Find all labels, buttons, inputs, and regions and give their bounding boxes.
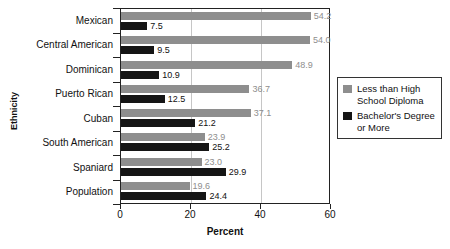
bar-group: 37.121.2 [121, 106, 329, 130]
x-axis-tick-label: 20 [184, 209, 195, 220]
bar-rows: 54.27.554.09.548.910.936.712.537.121.223… [121, 9, 329, 203]
bar [121, 109, 251, 117]
legend-swatch [343, 112, 352, 120]
category-label: Puerto Rican [6, 82, 118, 107]
y-axis-tick [113, 204, 120, 205]
bar [121, 22, 147, 30]
bar-group: 23.925.2 [121, 130, 329, 154]
bar-value-label: 29.9 [226, 167, 247, 177]
bar [121, 119, 195, 127]
bar [121, 182, 190, 190]
bar-value-label: 21.2 [195, 118, 216, 128]
bar [121, 192, 206, 200]
y-axis-tick [113, 82, 120, 83]
legend-swatch [343, 85, 352, 93]
x-axis-tick-label: 60 [324, 209, 335, 220]
bar-value-label: 24.4 [206, 191, 227, 201]
bar-value-label: 7.5 [147, 21, 163, 31]
x-axis-title: Percent [120, 226, 330, 237]
bar-value-label: 37.1 [251, 108, 272, 118]
bar-value-label: 54.2 [311, 11, 332, 21]
bar-value-label: 36.7 [249, 84, 270, 94]
bar [121, 46, 154, 54]
bar [121, 158, 202, 166]
legend-label: Less than High School Diploma [357, 83, 424, 106]
x-axis-tick-labels: 0204060 [120, 209, 330, 223]
y-axis-tick [113, 33, 120, 34]
plot-area: 54.27.554.09.548.910.936.712.537.121.223… [120, 8, 330, 204]
bar [121, 71, 159, 79]
bar-value-label: 48.9 [292, 60, 313, 70]
y-axis-ticks [113, 8, 120, 204]
legend-label: Bachelor's Degree or More [357, 110, 435, 133]
bar [121, 85, 249, 93]
category-label: Population [6, 180, 118, 205]
bar-group: 54.27.5 [121, 9, 329, 33]
bar-value-label: 10.9 [159, 70, 180, 80]
bar [121, 61, 292, 69]
chart-legend: Less than High School DiplomaBachelor's … [337, 77, 442, 139]
y-axis-tick [113, 8, 120, 9]
category-label: Dominican [6, 57, 118, 82]
horizontal-bar-chart: Ethnicity MexicanCentral AmericanDominic… [0, 0, 450, 249]
bar [121, 168, 226, 176]
bar-group: 48.910.9 [121, 58, 329, 82]
bar-group: 36.712.5 [121, 82, 329, 106]
x-axis-tick-label: 0 [117, 209, 123, 220]
category-label: Cuban [6, 106, 118, 131]
category-label: Spaniard [6, 155, 118, 180]
bar-value-label: 54.0 [310, 35, 331, 45]
y-axis-tick [113, 131, 120, 132]
y-axis-tick [113, 57, 120, 58]
bar-group: 54.09.5 [121, 33, 329, 57]
bar-value-label: 25.2 [209, 142, 230, 152]
bar-value-label: 23.9 [205, 132, 226, 142]
bar [121, 36, 310, 44]
bar [121, 12, 311, 20]
bar-group: 19.624.4 [121, 179, 329, 203]
bar-value-label: 12.5 [165, 94, 186, 104]
y-axis-tick [113, 180, 120, 181]
bar [121, 95, 165, 103]
category-labels: MexicanCentral AmericanDominicanPuerto R… [6, 8, 118, 204]
y-axis-tick [113, 155, 120, 156]
legend-item: Bachelor's Degree or More [343, 110, 435, 133]
category-label: Central American [6, 33, 118, 58]
bar-value-label: 19.6 [190, 181, 211, 191]
category-label: Mexican [6, 8, 118, 33]
x-axis-tick-label: 40 [254, 209, 265, 220]
legend-item: Less than High School Diploma [343, 83, 435, 106]
y-axis-tick [113, 106, 120, 107]
bar-value-label: 23.0 [202, 157, 223, 167]
bar [121, 143, 209, 151]
bar-group: 23.029.9 [121, 155, 329, 179]
bar [121, 133, 205, 141]
category-label: South American [6, 131, 118, 156]
bar-value-label: 9.5 [154, 45, 170, 55]
